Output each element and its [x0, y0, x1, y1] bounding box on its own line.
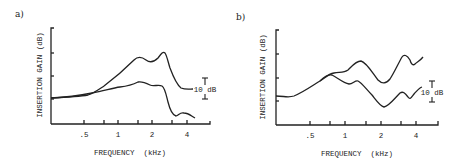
chart-a-xtick-1: 1	[116, 131, 121, 139]
chart-a-xlabel: FREQUENCY (kHz)	[94, 149, 166, 157]
chart-a-scale-label: 10 dB	[194, 86, 217, 94]
chart-b-xtick-2: 2	[379, 132, 384, 140]
chart-b-xlabel: FREQUENCY (kHz)	[321, 150, 393, 158]
chart-b-upper-curve	[276, 55, 423, 97]
chart-a-upper-curve	[51, 52, 193, 98]
chart-b	[276, 30, 438, 125]
chart-b-scale-label: 10 dB	[421, 89, 444, 97]
chart-a-lower-curve	[51, 82, 195, 118]
chart-a-xtick-2: 2	[150, 131, 155, 139]
chart-b-lower-curve	[320, 75, 422, 107]
chart-b-ylabel: INSERTION GAIN (dB)	[259, 34, 267, 120]
chart-a-x-axis	[51, 121, 210, 124]
chart-b-xtick-0: .5	[305, 132, 315, 140]
chart-a-xtick-0: .5	[79, 131, 89, 139]
charts-canvas: INSERTION GAIN (dB) .5 1 2 4 FREQUENCY (…	[0, 0, 453, 167]
chart-b-xtick-1: 1	[343, 132, 348, 140]
chart-b-x-axis	[276, 121, 438, 125]
chart-a-xtick-3: 4	[185, 131, 190, 139]
chart-a-ylabel: INSERTION GAIN (dB)	[36, 32, 44, 118]
chart-a	[51, 28, 210, 124]
chart-b-xtick-3: 4	[414, 132, 419, 140]
